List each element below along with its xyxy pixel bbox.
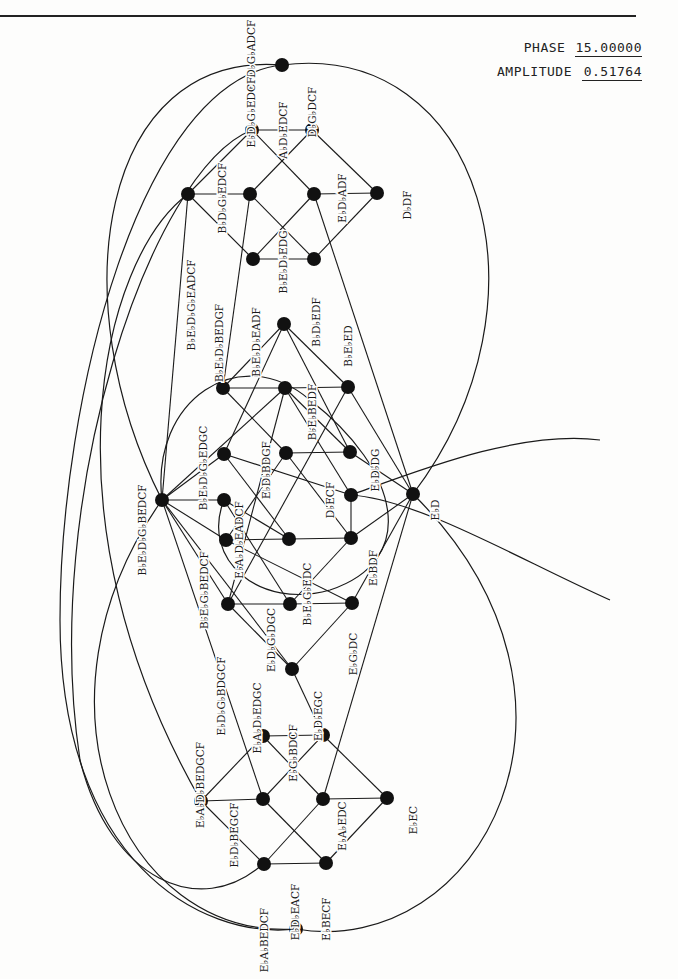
node-label: E♭EC bbox=[407, 806, 419, 834]
node-label: E♭D♭BDGF bbox=[260, 441, 272, 499]
diagram-page: PHASE 15.00000 AMPLITUDE 0.51764 E♭D♭G♭A… bbox=[0, 0, 678, 979]
graph-node bbox=[217, 447, 231, 461]
arc-curve bbox=[351, 438, 600, 495]
label-layer: E♭D♭G♭ADCFE♭D♭G♭ADCFE♭D♭G♭EDCFE♭D♭G♭EDCF… bbox=[136, 20, 441, 972]
graph-edge bbox=[314, 194, 413, 494]
graph-node bbox=[370, 186, 384, 200]
node-label: E♭A♭D♭EDGC bbox=[251, 682, 263, 753]
graph-edge bbox=[162, 500, 228, 604]
node-label: B♭D♭EDF bbox=[310, 297, 322, 346]
node-label: B♭E♭D♭G♭BEDCF bbox=[136, 484, 148, 575]
graph-node bbox=[343, 445, 357, 459]
graph-node bbox=[341, 380, 355, 394]
pitch-set-lattice-graph: E♭D♭G♭ADCFE♭D♭G♭ADCFE♭D♭G♭EDCFE♭D♭G♭EDCF… bbox=[0, 0, 678, 979]
graph-node bbox=[406, 487, 420, 501]
graph-node bbox=[283, 597, 297, 611]
graph-node bbox=[344, 488, 358, 502]
graph-edge bbox=[201, 799, 263, 801]
node-label: B♭E♭D♭BEDGF bbox=[213, 304, 225, 382]
node-label: A♭D♭EDCF bbox=[277, 101, 289, 159]
node-label: D♭ECF bbox=[324, 482, 336, 518]
node-label: B♭E♭BEDF bbox=[306, 384, 318, 440]
node-label: B♭E♭G♭EDC bbox=[301, 563, 313, 626]
node-label: E♭BDF bbox=[367, 550, 379, 586]
graph-edge bbox=[162, 454, 224, 500]
graph-node bbox=[217, 493, 231, 507]
node-label: B♭E♭G♭BEDCF bbox=[198, 551, 210, 629]
graph-edge bbox=[286, 452, 350, 453]
graph-node bbox=[275, 58, 289, 72]
graph-node bbox=[380, 791, 394, 805]
arc-curve bbox=[161, 376, 388, 594]
node-label: D♭G♭DCF bbox=[306, 87, 318, 137]
graph-node bbox=[243, 187, 257, 201]
node-label: E♭A♭BEDCF bbox=[258, 908, 270, 972]
node-label: B♭E♭ED bbox=[342, 325, 354, 366]
node-label: E♭A♭D♭EADCF bbox=[233, 501, 245, 579]
graph-edge bbox=[162, 500, 226, 540]
node-label: E♭D♭EGC bbox=[312, 691, 324, 741]
graph-edge bbox=[290, 603, 352, 604]
graph-edge bbox=[290, 538, 351, 604]
graph-node bbox=[256, 792, 270, 806]
graph-node bbox=[285, 662, 299, 676]
graph-edge bbox=[323, 798, 387, 799]
graph-edge bbox=[264, 863, 326, 864]
node-label: B♭D♭G♭EDCF bbox=[216, 163, 228, 234]
node-label: E♭D♭EACF bbox=[289, 884, 301, 941]
node-label: B♭E♭D♭EDG bbox=[277, 230, 289, 293]
node-label: B♭E♭D♭G♭EADCF bbox=[185, 260, 197, 351]
node-label: E♭D♭G♭BDGCF bbox=[215, 656, 227, 735]
node-label: E♭D♭G♭DGC bbox=[265, 608, 277, 672]
node-label: E♭D♭ADF bbox=[336, 173, 348, 222]
graph-node bbox=[221, 597, 235, 611]
graph-node bbox=[307, 187, 321, 201]
node-label: E♭D♭DG bbox=[369, 449, 381, 492]
graph-edge bbox=[228, 604, 292, 669]
graph-node bbox=[246, 252, 260, 266]
graph-node bbox=[344, 531, 358, 545]
node-label: E♭D♭BEGCF bbox=[228, 802, 240, 867]
graph-edge bbox=[352, 494, 413, 603]
graph-node bbox=[257, 857, 271, 871]
graph-node bbox=[181, 187, 195, 201]
node-label: B♭E♭D♭G♭EDGC bbox=[197, 426, 209, 511]
graph-node bbox=[319, 856, 333, 870]
graph-node bbox=[307, 252, 321, 266]
graph-edge bbox=[289, 538, 351, 539]
graph-edge bbox=[286, 453, 351, 538]
graph-node bbox=[277, 317, 291, 331]
node-label: D♭DF bbox=[401, 190, 413, 219]
graph-node bbox=[282, 532, 296, 546]
node-label: E♭G♭DC bbox=[347, 633, 359, 675]
node-label: B♭E♭D♭EADF bbox=[250, 307, 262, 377]
graph-node bbox=[279, 446, 293, 460]
node-label: E♭A♭EDC bbox=[336, 801, 348, 850]
graph-edge bbox=[323, 494, 413, 799]
graph-node bbox=[216, 381, 230, 395]
node-label: E♭D bbox=[429, 499, 441, 520]
graph-node bbox=[155, 493, 169, 507]
node-label: E♭G♭BDCF bbox=[287, 724, 299, 781]
graph-node bbox=[278, 381, 292, 395]
graph-node bbox=[345, 596, 359, 610]
graph-edge bbox=[162, 500, 263, 799]
node-label: E♭D♭G♭EDCF bbox=[245, 77, 257, 148]
node-label: E♭A♭D♭BEDGCF bbox=[194, 742, 206, 828]
graph-node bbox=[316, 792, 330, 806]
graph-node bbox=[219, 533, 233, 547]
node-label: E♭BECF bbox=[320, 897, 332, 940]
